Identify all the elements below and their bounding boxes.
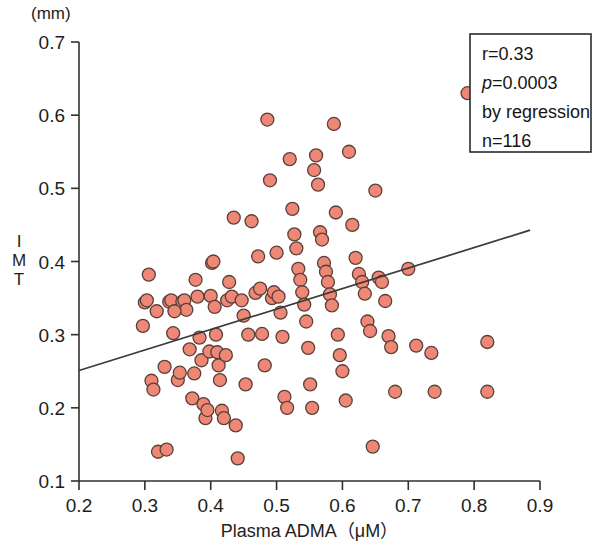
data-point (245, 215, 258, 228)
data-point (256, 327, 269, 340)
data-point (254, 282, 267, 295)
y-tick-label: 0.2 (39, 398, 65, 419)
data-point (331, 328, 344, 341)
data-point (208, 300, 221, 313)
data-point (339, 394, 352, 407)
data-point (242, 328, 255, 341)
data-point (349, 251, 362, 264)
data-point (191, 290, 204, 303)
data-point (223, 275, 236, 288)
data-point (239, 378, 252, 391)
data-point (358, 287, 371, 300)
data-point (183, 343, 196, 356)
data-point (201, 404, 214, 417)
y-axis-title: I M T (8, 232, 30, 289)
data-point (150, 305, 163, 318)
data-point (329, 206, 342, 219)
data-point (379, 295, 392, 308)
data-point (286, 202, 299, 215)
data-point (290, 242, 303, 255)
data-point (327, 117, 340, 130)
data-point (229, 419, 242, 432)
data-point (302, 341, 315, 354)
legend-line-n: n=116 (482, 131, 531, 151)
x-axis-title-text: Plasma ADMA（μM） (221, 521, 398, 541)
data-point (276, 330, 289, 343)
data-point (306, 401, 319, 414)
data-point (481, 335, 494, 348)
data-point (188, 367, 201, 380)
data-point (158, 360, 171, 373)
y-tick-label: 0.5 (39, 178, 65, 199)
data-point (346, 218, 359, 231)
data-point (308, 164, 321, 177)
data-point (252, 250, 265, 263)
y-axis-title-char: M (8, 251, 30, 270)
y-axis-title-char: T (8, 270, 30, 289)
data-point (310, 149, 323, 162)
data-point (189, 273, 202, 286)
legend-line-r: r=0.33 (482, 44, 534, 64)
x-tick-label: 0.9 (527, 495, 553, 516)
data-point (481, 385, 494, 398)
x-tick-label: 0.8 (461, 495, 487, 516)
data-point (389, 385, 402, 398)
legend-line-p: p=0.0003 (481, 73, 558, 93)
data-point (316, 233, 329, 246)
x-tick-label: 0.5 (263, 495, 289, 516)
y-axis: 0.10.20.30.40.50.60.7 (39, 32, 79, 492)
data-point (304, 378, 317, 391)
plot-canvas: 0.10.20.30.40.50.60.7 0.20.30.40.50.60.7… (0, 0, 594, 551)
data-point (283, 153, 296, 166)
data-point (217, 412, 230, 425)
stats-legend: r=0.33p=0.0003by regressionn=116 (470, 34, 591, 152)
data-point (140, 294, 153, 307)
data-point (410, 339, 423, 352)
x-axis-title: Plasma ADMA（μM） (221, 521, 398, 541)
data-point (263, 174, 276, 187)
y-tick-label: 0.1 (39, 471, 65, 492)
data-point (336, 365, 349, 378)
scatter-plot-figure: (mm) I M T 0.10.20.30.40.50.60.7 0.20.30… (0, 0, 594, 551)
x-tick-label: 0.4 (198, 495, 225, 516)
legend-line-method: by regression (482, 102, 590, 122)
data-point (261, 113, 274, 126)
data-point (213, 374, 226, 387)
y-axis-unit-label: (mm) (31, 4, 71, 24)
data-point (364, 325, 377, 338)
data-point (231, 452, 244, 465)
data-point (343, 145, 356, 158)
data-point (168, 305, 181, 318)
x-tick-label: 0.2 (66, 495, 92, 516)
x-tick-label: 0.3 (132, 495, 158, 516)
data-point (296, 286, 309, 299)
data-point (160, 443, 173, 456)
data-point (312, 178, 325, 191)
data-point (173, 366, 186, 379)
x-axis: 0.20.30.40.50.60.70.80.9 (66, 481, 553, 516)
x-tick-label: 0.6 (329, 495, 355, 516)
data-point (180, 303, 193, 316)
data-point (207, 255, 220, 268)
data-points (136, 87, 493, 465)
data-point (385, 341, 398, 354)
data-point (219, 349, 232, 362)
x-tick-label: 0.7 (395, 495, 421, 516)
data-point (428, 385, 441, 398)
data-point (167, 327, 180, 340)
data-point (136, 319, 149, 332)
y-axis-title-char: I (8, 232, 30, 251)
data-point (227, 211, 240, 224)
data-point (425, 346, 438, 359)
y-tick-label: 0.3 (39, 325, 65, 346)
y-tick-label: 0.6 (39, 105, 65, 126)
data-point (325, 299, 338, 312)
data-point (142, 268, 155, 281)
data-point (288, 228, 301, 241)
data-point (321, 275, 334, 288)
y-tick-label: 0.4 (39, 252, 66, 273)
data-point (366, 440, 379, 453)
data-point (300, 315, 313, 328)
data-point (369, 184, 382, 197)
data-point (258, 359, 271, 372)
